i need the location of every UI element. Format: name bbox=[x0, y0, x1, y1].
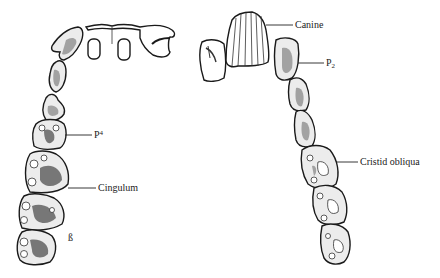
label-cingulum-text: Cingulum bbox=[98, 182, 138, 193]
label-canine: Canine bbox=[295, 20, 323, 30]
lower-incisor bbox=[200, 40, 226, 81]
lower-dentition bbox=[200, 12, 358, 264]
label-p4: P4 bbox=[94, 130, 103, 140]
label-sharp-s-mark: ß bbox=[68, 233, 73, 243]
dentition-diagram bbox=[0, 0, 440, 278]
incisor-window-1 bbox=[88, 39, 100, 59]
upper-dentition bbox=[17, 25, 174, 265]
label-canine-text: Canine bbox=[295, 19, 323, 30]
label-cristid-obliqua-text: Cristid obliqua bbox=[360, 156, 420, 167]
label-sharp-s-mark-text: ß bbox=[68, 232, 73, 243]
label-p4-superscript: 4 bbox=[100, 129, 104, 137]
label-cingulum: Cingulum bbox=[98, 183, 138, 193]
label-p2: P2 bbox=[326, 58, 335, 70]
label-p2-subscript: 2 bbox=[332, 62, 336, 70]
label-cristid-obliqua: Cristid obliqua bbox=[360, 157, 420, 167]
incisor-window-2 bbox=[118, 39, 130, 60]
